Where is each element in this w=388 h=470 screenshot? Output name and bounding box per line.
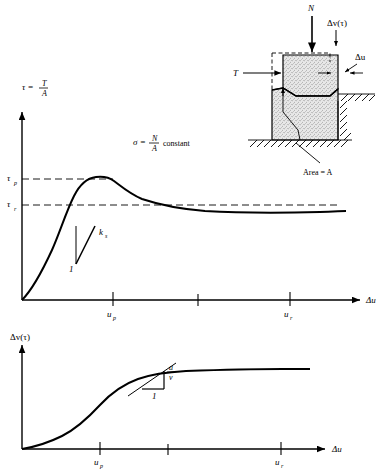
area-leader-line <box>296 143 320 163</box>
lower-x-axis-label: Δu <box>331 444 342 454</box>
sigma-annotation-symbol: σ = <box>133 137 146 147</box>
ks-slope-hypotenuse <box>76 226 95 264</box>
ks-label: k <box>99 227 104 237</box>
vertical-disp-label: Δv(τ) <box>327 18 347 28</box>
upper-x-tick-up-label: u <box>107 309 112 319</box>
sigma-annotation-denominator: A <box>151 144 157 153</box>
lower-x-tick-up-subscript: p <box>99 463 103 469</box>
lower-y-axis-label: Δv(τ) <box>10 332 30 342</box>
upper-x-tick-up-subscript: p <box>112 315 116 321</box>
ks-subscript: s <box>105 233 108 239</box>
sigma-annotation-numerator: N <box>151 134 158 143</box>
lower-x-tick-ur-label: u <box>275 457 280 467</box>
lower-plot: Δv(τ) Δu a v 1 u p u r <box>10 332 342 469</box>
normal-load-label: N <box>307 3 315 13</box>
dilatancy-curve <box>22 369 310 449</box>
delta-u-leader <box>345 64 357 72</box>
tau-p-label: τ <box>7 173 11 183</box>
horizontal-disp-label: Δu <box>355 52 366 62</box>
figure-root: N Δv(τ) T Δu <box>0 0 388 470</box>
tau-r-label: τ <box>7 199 11 209</box>
tau-p-subscript: p <box>13 180 17 186</box>
dilatancy-run-label: 1 <box>152 391 157 401</box>
upper-y-axis-denominator: A <box>41 89 47 98</box>
upper-x-tick-ur-subscript: r <box>290 315 293 321</box>
sigma-annotation-tail: constant <box>163 139 190 148</box>
ks-run-label: 1 <box>69 264 74 274</box>
upper-y-axis-label: τ = <box>22 82 34 92</box>
upper-x-tick-ur-label: u <box>284 309 289 319</box>
dilatancy-rate-denominator: v <box>169 373 173 382</box>
lower-x-tick-ur-subscript: r <box>281 463 284 469</box>
lower-x-tick-up-label: u <box>94 457 99 467</box>
dilatancy-rate-numerator: a <box>169 363 173 372</box>
tau-r-subscript: r <box>14 206 17 212</box>
area-label: Area = A <box>303 168 333 177</box>
shear-stress-curve <box>22 177 346 300</box>
shear-force-label: T <box>233 68 239 78</box>
ground-hatch-right <box>338 94 375 140</box>
upper-x-axis-label: Δu <box>365 295 376 305</box>
figure-svg: N Δv(τ) T Δu <box>0 0 388 470</box>
shear-box-sketch: N Δv(τ) T Δu <box>233 3 375 177</box>
upper-y-axis-numerator: T <box>42 79 47 88</box>
